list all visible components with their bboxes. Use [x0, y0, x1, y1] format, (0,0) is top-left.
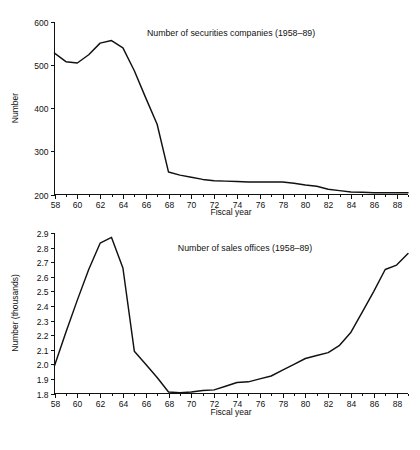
x-tick-label: 84 — [347, 200, 357, 210]
x-axis-title-bottom: Fiscal year — [210, 407, 251, 417]
x-tick-label: 66 — [142, 200, 152, 210]
x-tick-label: 80 — [301, 399, 311, 409]
chart-securities-companies: 200300400500600 Number 58606264666870727… — [0, 0, 420, 225]
y-tick-label: 200 — [34, 191, 48, 201]
x-tick-label: 62 — [96, 399, 106, 409]
y-tick-label: 2.5 — [37, 287, 49, 297]
x-tick-label: 60 — [73, 399, 83, 409]
y-tick-labels-top: 200300400500600 — [34, 18, 48, 201]
x-tick-label: 76 — [256, 200, 266, 210]
x-tick-label: 78 — [279, 399, 289, 409]
y-ticks-top — [51, 23, 55, 196]
y-tick-label: 2.0 — [37, 360, 49, 370]
x-tick-label: 68 — [165, 399, 175, 409]
y-tick-label: 500 — [34, 61, 48, 71]
y-axis-group-bottom: 1.81.92.02.12.22.32.42.52.62.72.82.9 Num… — [10, 229, 55, 400]
x-axis-group-bottom: 58606264666870727476788082848688 Fiscal … — [51, 394, 409, 418]
x-tick-label: 88 — [393, 200, 403, 210]
y-axis-title-bottom: Number (thousands) — [10, 274, 20, 352]
y-tick-label: 2.4 — [37, 302, 49, 312]
x-tick-label: 80 — [301, 200, 311, 210]
x-tick-label: 76 — [256, 399, 266, 409]
y-tick-label: 2.9 — [37, 229, 49, 239]
y-tick-label: 300 — [34, 147, 48, 157]
x-tick-label: 64 — [119, 200, 129, 210]
x-axis-title-top: Fiscal year — [210, 207, 251, 217]
x-tick-label: 70 — [187, 399, 197, 409]
x-tick-label: 68 — [165, 200, 175, 210]
series-line-sales-offices — [55, 237, 409, 392]
chart-title-securities-companies: Number of securities companies (1958–89) — [147, 28, 315, 38]
y-axis-title-top: Number — [10, 93, 20, 123]
y-tick-label: 400 — [34, 104, 48, 114]
sales-offices-svg: 1.81.92.02.12.22.32.42.52.62.72.82.9 Num… — [0, 225, 420, 450]
securities-companies-svg: 200300400500600 Number 58606264666870727… — [0, 0, 420, 225]
y-tick-label: 2.3 — [37, 317, 49, 327]
x-tick-label: 78 — [279, 200, 289, 210]
x-tick-label: 82 — [324, 200, 334, 210]
y-tick-label: 1.9 — [37, 375, 49, 385]
x-ticks-bottom — [56, 394, 409, 398]
x-tick-label: 58 — [51, 200, 61, 210]
x-tick-label: 60 — [73, 200, 83, 210]
x-tick-label: 84 — [347, 399, 357, 409]
y-tick-label: 2.8 — [37, 244, 49, 254]
y-tick-label: 600 — [34, 18, 48, 28]
x-tick-label: 86 — [370, 399, 380, 409]
x-tick-label: 64 — [119, 399, 129, 409]
chart-title-sales-offices: Number of sales offices (1958–89) — [178, 243, 312, 253]
y-tick-label: 2.6 — [37, 273, 49, 283]
y-tick-label: 1.8 — [37, 390, 49, 400]
chart-sales-offices: 1.81.92.02.12.22.32.42.52.62.72.82.9 Num… — [0, 225, 420, 450]
x-tick-label: 82 — [324, 399, 334, 409]
cropped-text-below — [10, 441, 160, 449]
y-ticks-bottom — [51, 234, 55, 395]
x-ticks-top — [56, 195, 409, 199]
x-tick-label: 58 — [51, 399, 61, 409]
x-tick-label: 86 — [370, 200, 380, 210]
y-tick-labels-bottom: 1.81.92.02.12.22.32.42.52.62.72.82.9 — [37, 229, 49, 400]
x-tick-label: 70 — [187, 200, 197, 210]
figure-page: 200300400500600 Number 58606264666870727… — [0, 0, 420, 450]
x-axis-group-top: 58606264666870727476788082848688 Fiscal … — [51, 195, 409, 218]
x-tick-label: 88 — [393, 399, 403, 409]
series-line-securities-companies — [55, 41, 409, 193]
x-tick-label: 62 — [96, 200, 106, 210]
x-tick-label: 66 — [142, 399, 152, 409]
y-tick-label: 2.2 — [37, 331, 49, 341]
y-tick-label: 2.1 — [37, 346, 49, 356]
y-axis-group-top: 200300400500600 Number — [10, 18, 55, 201]
y-tick-label: 2.7 — [37, 258, 49, 268]
